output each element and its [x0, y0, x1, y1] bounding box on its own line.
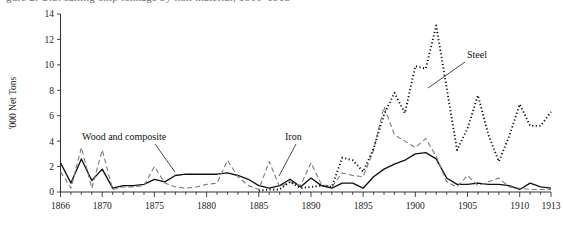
y-tick-label: 8	[49, 86, 54, 96]
series-line-iron	[61, 107, 552, 190]
annotation-leader-iron	[279, 144, 296, 176]
x-tick-label: 1910	[510, 201, 529, 211]
x-tick-label: 1913	[542, 201, 561, 211]
y-tick-label: 12	[45, 35, 55, 45]
series-annotation-iron: Iron	[285, 131, 302, 142]
y-tick-group: 02468101214	[45, 9, 61, 197]
x-tick-group: 1866187018751880188518901895190019051910…	[51, 192, 561, 211]
x-tick-label: 1870	[93, 201, 112, 211]
y-axis-title: '000 Net Tons	[8, 76, 18, 129]
x-axis-group: 1866187018751880188518901895190019051910…	[51, 192, 561, 211]
x-tick-label: 1895	[354, 201, 373, 211]
y-axis-group: 02468101214 '000 Net Tons	[8, 9, 61, 197]
x-tick-label: 1885	[249, 201, 268, 211]
x-tick-label: 1900	[406, 201, 425, 211]
x-tick-label: 1880	[197, 201, 216, 211]
annotation-leader-steel	[428, 62, 465, 88]
x-tick-label: 1875	[145, 201, 164, 211]
x-tick-label: 1890	[301, 201, 320, 211]
annotation-leader-wood-and-composite	[155, 144, 175, 172]
y-tick-label: 6	[49, 111, 54, 121]
y-tick-label: 14	[45, 9, 55, 19]
x-tick-label: 1866	[51, 201, 70, 211]
y-tick-label: 10	[45, 60, 55, 70]
y-tick-label: 2	[49, 162, 54, 172]
series-annotation-steel: Steel	[467, 49, 487, 60]
x-tick-label: 1905	[458, 201, 477, 211]
series-line-wood-and-composite	[61, 153, 552, 190]
series-annotation-wood-and-composite: Wood and composite	[82, 131, 167, 142]
line-chart: 02468101214 '000 Net Tons 18661870187518…	[0, 0, 563, 228]
y-tick-label: 0	[49, 187, 54, 197]
figure-container: gure 2. U.S. sailing-ship tonnage by hul…	[0, 0, 563, 228]
series-line-steel	[259, 25, 551, 190]
y-tick-label: 4	[49, 137, 54, 147]
